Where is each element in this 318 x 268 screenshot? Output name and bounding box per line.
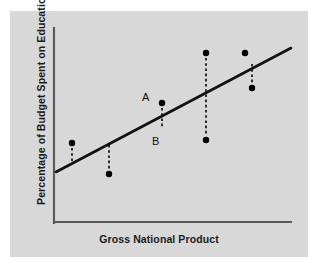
- y-axis-label-text: Percentage of Budget Spent on Education: [35, 0, 47, 205]
- regression-line: [56, 48, 291, 172]
- data-dot-4-lower: [203, 137, 209, 143]
- data-point-group-4: [203, 50, 209, 143]
- y-axis-label: Percentage of Budget Spent on Education: [32, 0, 50, 214]
- data-dot-5-lower: [249, 85, 255, 91]
- data-dot-3-observed: [159, 100, 165, 106]
- data-point-group-1: [69, 140, 75, 164]
- chart-panel: A B Percentage of Budget Spent on Educat…: [10, 11, 308, 257]
- data-point-group-2: [106, 145, 112, 177]
- data-dot-4-upper: [203, 50, 209, 56]
- point-label-b: B: [152, 135, 159, 147]
- data-dot-1: [69, 140, 75, 146]
- x-axis-label: Gross National Product: [10, 233, 308, 245]
- scatter-plot-svg: A B: [10, 11, 308, 257]
- data-point-group-3-labelled: A B: [142, 91, 165, 147]
- data-dot-2: [106, 171, 112, 177]
- point-label-a: A: [142, 91, 150, 103]
- data-dot-5-upper: [242, 50, 248, 56]
- figure-root: A B Percentage of Budget Spent on Educat…: [0, 0, 318, 268]
